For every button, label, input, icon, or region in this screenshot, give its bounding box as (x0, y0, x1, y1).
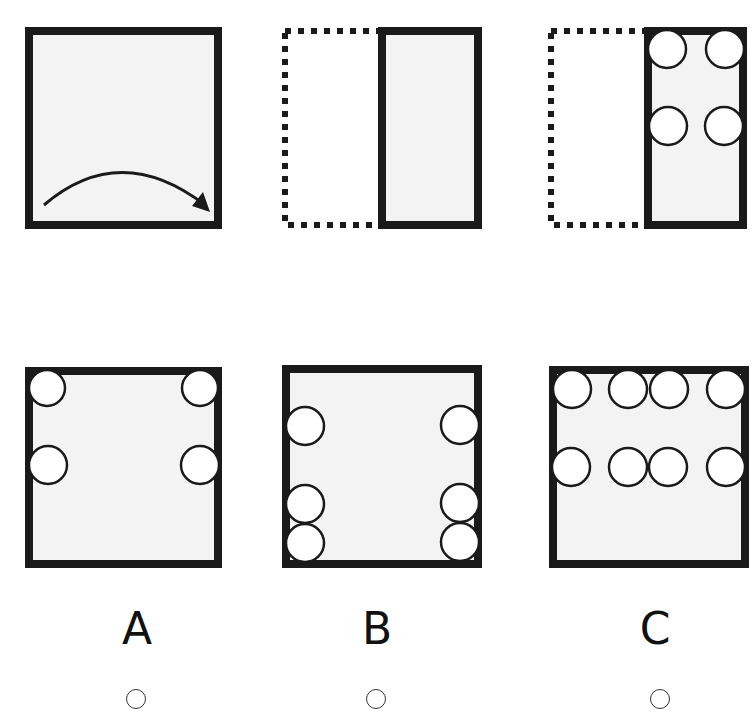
option-c-radio[interactable] (650, 689, 670, 709)
option-a-label: A (122, 607, 152, 651)
step-2-panel (285, 31, 478, 225)
option-a-radio[interactable] (126, 689, 146, 709)
folded-half-outline (285, 31, 381, 225)
step-3-panel (551, 30, 744, 225)
step-1-panel (29, 31, 218, 225)
option-b-label: B (362, 607, 392, 651)
option-b-radio[interactable] (366, 689, 386, 709)
option-c-label: C (640, 607, 671, 651)
option-c-figure (552, 370, 745, 564)
visible-half (382, 31, 478, 225)
option-b-figure (286, 369, 479, 564)
folded-half-outline (551, 31, 647, 225)
option-a-figure (29, 370, 219, 564)
